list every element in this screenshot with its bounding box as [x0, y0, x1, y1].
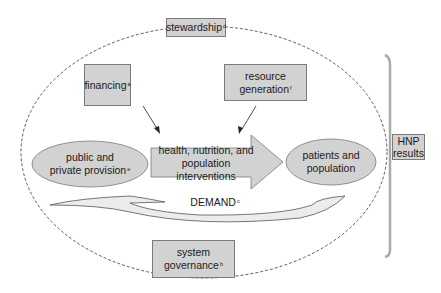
footnote-f: f	[290, 85, 292, 91]
demand-label: DEMANDc	[180, 195, 250, 209]
footnote-b: b	[220, 261, 223, 267]
interventions-line1: health, nutrition, and	[158, 144, 253, 157]
generation-label: generation	[239, 83, 289, 95]
system-governance-box: system governanceb	[152, 240, 235, 278]
hnp-results-box: HNP results	[392, 134, 425, 160]
financing-label: financing	[84, 79, 126, 91]
footnote-c: c	[237, 198, 240, 204]
results-label: results	[393, 147, 424, 159]
provision-label: public and private provisione	[40, 148, 140, 180]
provision-line1: public and	[66, 151, 114, 164]
interventions-label: health, nutrition, and population interv…	[151, 148, 261, 178]
financing-box: financinga	[84, 64, 131, 106]
footnote-a: a	[127, 81, 130, 87]
financing-arrow	[143, 106, 160, 134]
patients-line2: population	[307, 162, 355, 175]
patients-line1: patients and	[302, 149, 359, 162]
system-label: system	[177, 246, 210, 259]
stewardship-box: stewardshipd	[166, 18, 226, 37]
provision-line2: private provision	[50, 164, 126, 176]
results-bracket	[385, 55, 390, 257]
hnp-label: HNP	[397, 135, 419, 147]
resource-label: resource	[245, 70, 286, 83]
governance-label: governance	[164, 259, 219, 271]
interventions-line2: population interventions	[151, 157, 261, 183]
footnote-e: e	[127, 166, 130, 172]
patients-label: patients and population	[290, 146, 372, 178]
footnote-d: d	[223, 23, 226, 29]
demand-text: DEMAND	[190, 196, 236, 208]
stewardship-label: stewardship	[166, 21, 222, 33]
resource-generation-box: resource generationf	[224, 64, 307, 101]
resource-arrow	[238, 106, 256, 134]
